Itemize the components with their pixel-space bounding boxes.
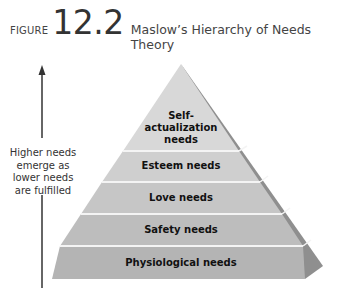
label-love: Love needs [121,192,241,204]
arrow-label-line: Higher needs [2,147,84,160]
arrow-label-line: lower needs [2,172,84,185]
label-physiological: Physiological needs [101,257,261,269]
arrow-label: Higher needs emerge as lower needs are f… [2,147,84,197]
arrow-label-line: emerge as [2,160,84,173]
label-esteem: Esteem needs [121,160,241,172]
label-safety: Safety needs [121,224,241,236]
arrow-up-icon [39,65,46,75]
label-line: needs [131,134,231,146]
label-line: actualization [131,122,231,134]
label-self-actualization: Self- actualization needs [131,110,231,146]
label-line: Self- [131,110,231,122]
arrow-label-line: are fulfilled [2,185,84,198]
